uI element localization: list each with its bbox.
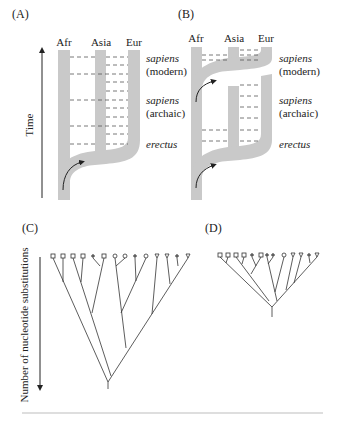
era-archaic-qualifier-a: (archaic) <box>146 107 185 120</box>
tip-square-icon <box>218 253 222 257</box>
panel-d-tree <box>218 253 319 317</box>
era-sapiens-modern-b: sapiens <box>279 52 312 64</box>
tip-triangle-icon <box>299 253 303 257</box>
col-afr-a: Afr <box>56 36 72 48</box>
tip-dot-icon <box>308 254 311 257</box>
time-axis-label: Time <box>23 113 35 136</box>
tip-square-icon <box>51 254 55 258</box>
tip-square-icon <box>226 253 230 257</box>
col-eur-a: Eur <box>126 36 142 48</box>
tip-circle-icon <box>113 254 117 258</box>
tree-c-branches <box>53 258 188 389</box>
panel-b-diagram: Afr Asia Eur sapiens (modern) <box>188 32 320 200</box>
lineage-bands-b <box>191 47 272 200</box>
tip-dot-icon <box>176 255 179 258</box>
panel-c-tree: Number of nucleotide substitutions <box>18 248 190 403</box>
col-asia-a: Asia <box>91 36 111 48</box>
tip-dot-icon <box>134 255 137 258</box>
era-sapiens-modern-a: sapiens <box>146 52 179 64</box>
tip-triangle-icon <box>186 254 190 258</box>
substitutions-axis-label: Number of nucleotide substitutions <box>18 248 30 403</box>
era-archaic-qualifier-b: (archaic) <box>279 107 318 120</box>
era-sapiens-archaic-b: sapiens <box>279 94 312 106</box>
era-erectus-b: erectus <box>279 138 310 150</box>
era-erectus-a: erectus <box>146 138 177 150</box>
col-eur-b: Eur <box>258 32 274 44</box>
tree-d-tips <box>218 253 319 257</box>
tip-triangle-icon <box>315 253 319 257</box>
tip-triangle-icon <box>155 254 159 258</box>
tip-circle-icon <box>282 253 286 257</box>
tip-square-icon <box>71 254 75 258</box>
panel-a-diagram: Time Afr Asia Eur sapiens ( <box>23 36 187 200</box>
tree-d-branches <box>220 257 317 317</box>
lineage-bands-a <box>58 50 140 200</box>
col-afr-b: Afr <box>188 32 204 44</box>
era-modern-qualifier-a: (modern) <box>146 65 187 78</box>
tip-square-icon <box>242 253 246 257</box>
tip-square-icon <box>102 254 106 258</box>
col-asia-b: Asia <box>224 32 244 44</box>
tip-square-icon <box>259 253 263 257</box>
tip-square-icon <box>61 254 65 258</box>
tip-dot-icon <box>272 254 275 257</box>
era-sapiens-archaic-a: sapiens <box>146 94 179 106</box>
tip-triangle-icon <box>291 253 295 257</box>
era-modern-qualifier-b: (modern) <box>279 65 320 78</box>
tip-circle-icon <box>144 254 148 258</box>
figure-canvas: Time Afr Asia Eur sapiens ( <box>0 0 337 432</box>
tree-c-tips <box>51 254 190 258</box>
tip-triangle-icon <box>165 254 169 258</box>
tip-circle-icon <box>123 254 127 258</box>
tip-square-icon <box>234 253 238 257</box>
tip-dot-icon <box>266 254 269 257</box>
tip-dot-icon <box>92 255 95 258</box>
tip-dot-icon <box>251 254 254 257</box>
tip-square-icon <box>81 254 85 258</box>
